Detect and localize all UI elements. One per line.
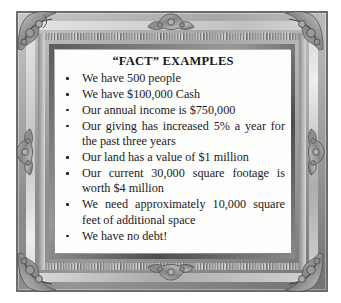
frame-corner-ornament-top-left — [14, 9, 60, 53]
frame-corner-ornament-top-right — [281, 9, 327, 53]
fact-list-item: We have 500 people — [55, 71, 285, 86]
bullet-dot-icon — [66, 109, 69, 112]
bullet-dot-icon — [66, 156, 69, 159]
bullet-dot-icon — [66, 172, 69, 175]
screenshot-root: “FACT” EXAMPLES We have 500 peopleWe hav… — [0, 0, 341, 303]
fact-list-item: Our annual income is $750,000 — [55, 103, 285, 118]
fact-examples-list: We have 500 peopleWe have $100,000 CashO… — [55, 71, 291, 244]
bullet-dot-icon — [66, 203, 69, 206]
artwork-title: “FACT” EXAMPLES — [55, 54, 291, 69]
bullet-dot-icon — [66, 93, 69, 96]
fact-list-item-label: We need approximately 10,000 square feet… — [82, 197, 285, 226]
fact-list-item: Our current 30,000 square footage is wor… — [55, 166, 285, 197]
fact-list-item-label: We have $100,000 Cash — [82, 87, 200, 101]
fact-list-item-label: Our giving has increased 5% a year for t… — [82, 119, 285, 148]
frame-corner-ornament-bottom-right — [281, 250, 327, 294]
fact-list-item: We need approximately 10,000 square feet… — [55, 197, 285, 228]
bullet-dot-icon — [66, 125, 69, 128]
bullet-dot-icon — [66, 235, 69, 238]
bullet-dot-icon — [66, 77, 69, 80]
fact-list-item: Our giving has increased 5% a year for t… — [55, 119, 285, 150]
frame-rail-ornament-left — [15, 126, 35, 178]
fact-list-item: We have no debt! — [55, 229, 285, 244]
frame-rail-ornament-top — [145, 12, 197, 32]
fact-list-item-label: We have no debt! — [82, 229, 167, 243]
fact-list-item: We have $100,000 Cash — [55, 87, 285, 102]
fact-list-item-label: Our annual income is $750,000 — [82, 103, 235, 117]
framed-canvas: “FACT” EXAMPLES We have 500 peopleWe hav… — [55, 50, 291, 253]
fact-list-item-label: Our land has a value of $1 million — [82, 150, 249, 164]
fact-list-item-label: Our current 30,000 square footage is wor… — [82, 166, 285, 195]
fact-list-item: Our land has a value of $1 million — [55, 150, 285, 165]
fact-list-item-label: We have 500 people — [82, 71, 181, 85]
frame-rail-ornament-bottom — [145, 262, 197, 282]
frame-corner-ornament-bottom-left — [14, 250, 60, 294]
frame-rail-ornament-right — [306, 126, 326, 178]
